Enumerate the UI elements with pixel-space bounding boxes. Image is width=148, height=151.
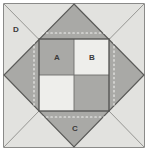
region-label-b: B <box>89 53 95 62</box>
center-quadrant-bottom-left <box>39 75 74 111</box>
region-label-a: A <box>54 53 60 62</box>
center-quadrant-bottom-right <box>74 75 109 111</box>
quilt-block-diagram: A B C D <box>0 0 148 151</box>
center-square-group <box>39 39 109 111</box>
diagram-figure: A B C D <box>0 0 148 151</box>
region-label-c: C <box>72 124 78 133</box>
region-label-d: D <box>13 25 19 34</box>
